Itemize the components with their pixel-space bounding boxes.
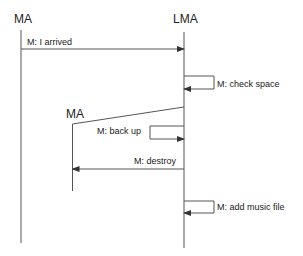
lifeline-header-lma: LMA [173,13,198,25]
message-label-back-up: M: back up [97,127,141,136]
self-loop-check-space [184,76,214,89]
create-ma-line [73,107,185,124]
lifeline-header-ma-created: MA [66,108,84,120]
message-label-i-arrived: M: I arrived [27,38,72,47]
message-label-check-space: M: check space [217,80,280,89]
self-loop-back-up [150,126,184,139]
lifeline-header-ma: MA [14,13,32,25]
message-label-destroy: M: destroy [134,157,176,166]
self-loop-add-music-file [184,201,214,213]
message-label-add-music-file: M: add music file [217,203,285,212]
